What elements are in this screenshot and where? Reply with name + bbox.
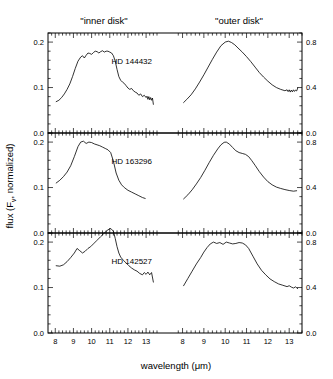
x-tick-label: 10 [87, 337, 95, 346]
panel-frame [48, 33, 302, 133]
y-tick-label-left: 0.2 [34, 238, 44, 247]
spectrum-line [56, 141, 145, 198]
x-tick-label: 8 [53, 337, 57, 346]
y-tick-label-right: 0.8 [306, 38, 316, 47]
x-tick-label: 12 [264, 337, 272, 346]
spectrum-line [56, 228, 153, 282]
y-tick-label-left: 0.1 [34, 83, 44, 92]
svg-text:flux (Fν, normalized): flux (Fν, normalized) [4, 144, 17, 229]
x-tick-label: 11 [106, 337, 114, 346]
panel-frame [48, 233, 302, 333]
y-tick-label-right: 0.0 [306, 329, 316, 338]
star-label: HD 163296 [112, 157, 153, 166]
panel-hd-144432: 0.00.10.20.00.40.8HD 144432 [34, 33, 317, 138]
y-tick-label-right: 0.0 [306, 229, 316, 238]
spectra-plot-canvas: "inner disk" "outer disk" wavelength (μm… [0, 0, 333, 379]
column-header-outer-disk: "outer disk" [215, 15, 263, 26]
y-tick-label-left: 0.0 [34, 229, 44, 238]
y-tick-label-right: 0.8 [306, 238, 316, 247]
panel-frame [48, 133, 302, 233]
x-tick-label: 13 [285, 337, 293, 346]
y-tick-label-left: 0.1 [34, 183, 44, 192]
y-axis-title-tail: , normalized) [4, 144, 15, 199]
star-label: HD 144432 [112, 57, 153, 66]
spectrum-line [184, 242, 298, 289]
y-tick-label-right: 0.4 [306, 283, 316, 292]
y-axis-title-main: flux (F [4, 202, 15, 229]
panel-group: 0.00.10.20.00.40.8HD 1444320.00.10.20.00… [34, 33, 317, 346]
column-header-inner-disk: "inner disk" [80, 15, 127, 26]
y-tick-label-left: 0.1 [34, 283, 44, 292]
y-tick-label-left: 0.0 [34, 329, 44, 338]
star-label: HD 142527 [112, 257, 153, 266]
x-tick-label: 10 [221, 337, 229, 346]
x-tick-label: 13 [142, 337, 150, 346]
spectrum-line [184, 41, 298, 102]
x-tick-label: 9 [202, 337, 206, 346]
panel-hd-163296: 0.00.10.20.00.40.8HD 163296 [34, 133, 317, 238]
x-axis-title: wavelength (μm) [140, 360, 211, 371]
y-tick-label-right: 0.4 [306, 83, 316, 92]
spectrum-line [184, 142, 297, 199]
y-tick-label-right: 0.0 [306, 129, 316, 138]
panel-hd-142527: 0.00.10.20.00.40.889101112138910111213HD… [34, 228, 317, 346]
y-tick-label-right: 0.4 [306, 183, 316, 192]
y-axis-title: flux (Fν, normalized) [4, 144, 17, 229]
x-tick-label: 8 [180, 337, 184, 346]
x-tick-label: 12 [124, 337, 132, 346]
x-tick-label: 9 [71, 337, 75, 346]
y-tick-label-right: 0.8 [306, 138, 316, 147]
y-tick-label-left: 0.2 [34, 38, 44, 47]
spectra-figure: "inner disk" "outer disk" wavelength (μm… [0, 0, 333, 379]
y-tick-label-left: 0.2 [34, 138, 44, 147]
x-tick-label: 11 [243, 337, 251, 346]
y-tick-label-left: 0.0 [34, 129, 44, 138]
